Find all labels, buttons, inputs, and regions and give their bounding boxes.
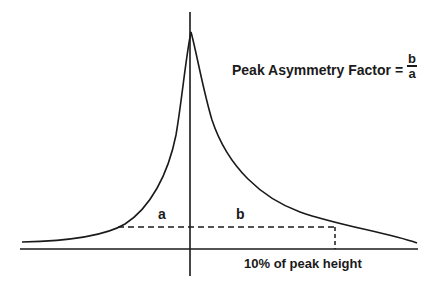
peak-height-note: 10% of peak height: [244, 256, 362, 271]
asymmetry-factor-title: Peak Asymmetry Factor =: [232, 62, 403, 78]
fraction-numerator: b: [406, 52, 418, 65]
label-a: a: [158, 206, 166, 222]
asymmetry-fraction: b a: [406, 52, 418, 80]
fraction-denominator: a: [406, 67, 418, 80]
label-b: b: [236, 206, 245, 222]
peak-asymmetry-diagram: [0, 0, 434, 293]
